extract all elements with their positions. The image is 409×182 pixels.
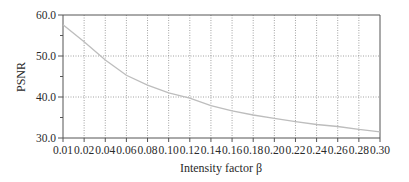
- plot-frame: [63, 15, 380, 138]
- grid-lines: [63, 15, 380, 138]
- x-tick-label: 0.18: [243, 144, 263, 156]
- x-tick-label: 0.04: [95, 144, 115, 156]
- y-tick-label: 40.0: [36, 91, 56, 103]
- x-tick-label: 0.24: [307, 144, 327, 156]
- x-tick-label: 0.02: [74, 144, 94, 156]
- x-tick-label: 0.08: [137, 144, 157, 156]
- x-tick-label: 0.26: [328, 144, 348, 156]
- x-tick-label: 0.10: [159, 144, 179, 156]
- x-tick-label: 0.30: [370, 144, 390, 156]
- x-tick-label: 0.14: [201, 144, 221, 156]
- psnr-line-chart: 30.040.050.060.0 0.010.020.040.060.080.1…: [0, 0, 409, 182]
- x-tick-label: 0.06: [116, 144, 136, 156]
- x-tick-label: 0.16: [222, 144, 242, 156]
- y-axis-ticks: 30.040.050.060.0: [36, 9, 63, 144]
- y-tick-label: 60.0: [36, 9, 56, 21]
- y-tick-label: 50.0: [36, 50, 56, 62]
- y-tick-label: 30.0: [36, 132, 56, 144]
- x-axis-ticks: 0.010.020.040.060.080.100.120.140.160.18…: [53, 138, 390, 156]
- psnr-curve: [63, 25, 380, 132]
- x-tick-label: 0.01: [53, 144, 73, 156]
- x-tick-label: 0.22: [285, 144, 305, 156]
- x-tick-label: 0.28: [349, 144, 369, 156]
- y-axis-title: PSNR: [14, 62, 28, 92]
- x-tick-label: 0.12: [180, 144, 200, 156]
- x-axis-title: Intensity factor β: [180, 161, 262, 175]
- x-tick-label: 0.20: [264, 144, 284, 156]
